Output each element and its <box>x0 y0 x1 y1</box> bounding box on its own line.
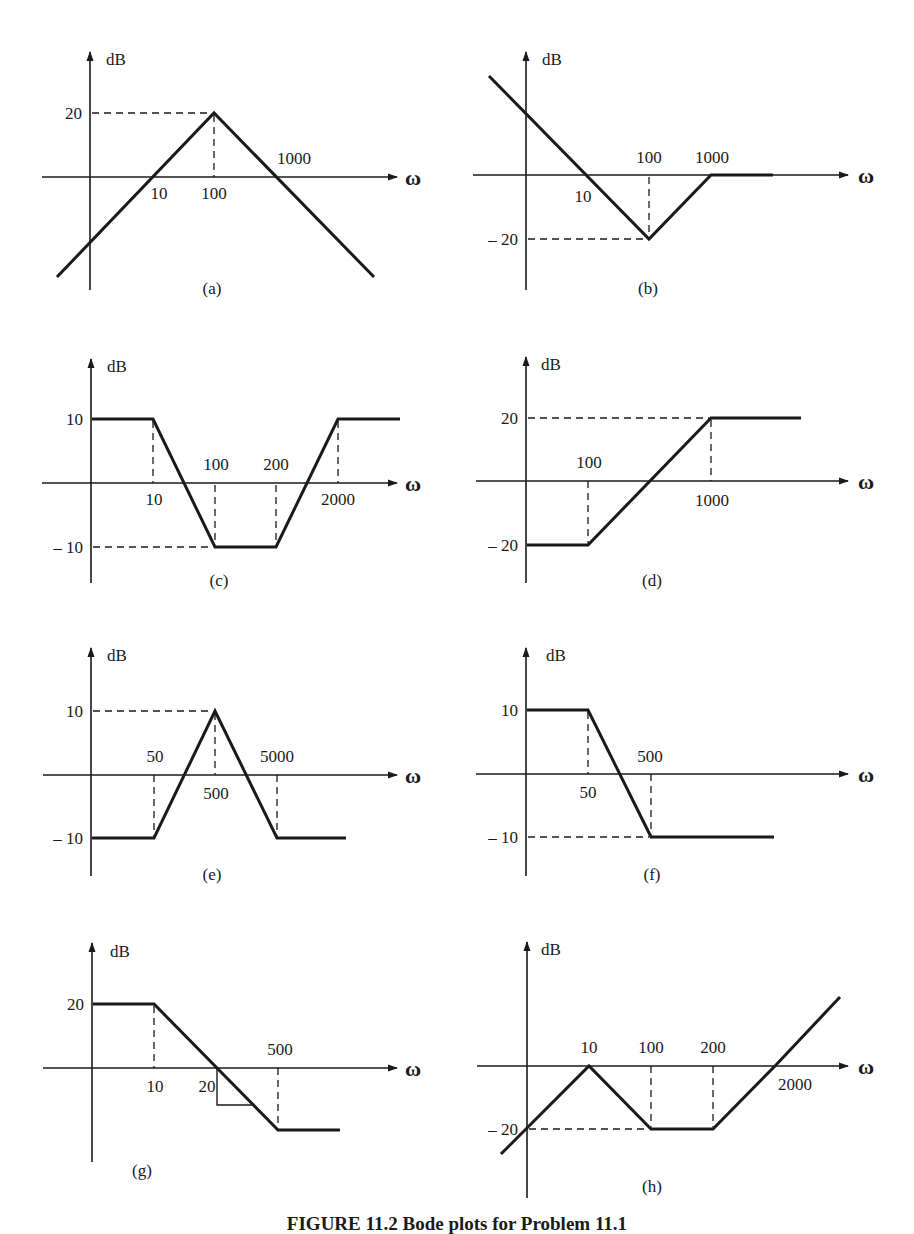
x-axis-label-omega: ω <box>405 1056 421 1081</box>
x-axis-label-omega: ω <box>405 763 421 788</box>
x-axis-label-omega: ω <box>858 163 874 188</box>
bode-curve <box>489 76 773 239</box>
x-axis-label-omega: ω <box>858 762 874 787</box>
x-tick-label: 10 <box>581 1038 598 1057</box>
x-axis-label-omega: ω <box>858 469 874 494</box>
x-axis-label-omega: ω <box>405 471 421 496</box>
x-tick-label: 1000 <box>277 149 311 168</box>
y-axis-label: dB <box>107 646 127 665</box>
x-tick-label: 10 <box>151 184 168 203</box>
x-tick-label: 500 <box>203 784 229 803</box>
panel-label: (c) <box>210 571 229 590</box>
x-axis-label-omega: ω <box>858 1054 874 1079</box>
y-axis-label: dB <box>546 646 566 665</box>
x-tick-label: 10 <box>575 187 592 206</box>
slope-label: 20 <box>199 1077 216 1096</box>
x-tick-label: 500 <box>637 747 663 766</box>
x-tick-label: 100 <box>636 148 662 167</box>
panel-g: dB ω 20 10 500 20 (g) <box>43 942 421 1180</box>
figure-caption: FIGURE 11.2 Bode plots for Problem 11.1 <box>0 1213 914 1234</box>
panel-label: (g) <box>132 1161 152 1180</box>
y-tick-label: – 20 <box>487 230 518 249</box>
x-tick-label: 5000 <box>260 747 294 766</box>
x-tick-label: 100 <box>638 1038 664 1057</box>
y-tick-label: – 10 <box>487 828 518 847</box>
panel-b: dB ω – 20 10 100 1000 (b) <box>473 50 874 298</box>
x-tick-label: 100 <box>576 453 602 472</box>
panel-e: dB ω 10 – 10 50 500 5000 (e) <box>43 646 421 884</box>
panel-label: (a) <box>203 279 222 298</box>
y-tick-label: – 10 <box>52 538 83 557</box>
panel-label: (h) <box>642 1177 662 1196</box>
x-tick-label: 10 <box>147 1077 164 1096</box>
y-tick-label: 10 <box>501 701 518 720</box>
x-tick-label: 50 <box>147 747 164 766</box>
y-tick-label: – 20 <box>487 1120 518 1139</box>
y-axis-label: dB <box>541 355 561 374</box>
bode-plot-figure: dB ω 20 10 100 1000 (a) dB ω – 20 10 100… <box>0 0 914 1234</box>
x-tick-label: 50 <box>580 783 597 802</box>
panel-f: dB ω 10 – 10 50 500 (f) <box>476 646 874 884</box>
y-axis-label: dB <box>110 942 130 961</box>
x-tick-label: 2000 <box>321 490 355 509</box>
x-tick-label: 200 <box>263 455 289 474</box>
y-tick-label: – 10 <box>52 829 83 848</box>
bode-curve <box>93 1004 340 1130</box>
x-tick-label: 500 <box>267 1040 293 1059</box>
y-tick-label: 10 <box>66 410 83 429</box>
panel-c: dB ω 10 – 10 10 100 200 2000 (c) <box>42 357 421 590</box>
panel-d: dB ω 20 – 20 100 1000 (d) <box>476 355 874 590</box>
y-axis-label: dB <box>106 50 126 69</box>
panel-label: (f) <box>644 865 661 884</box>
panel-a: dB ω 20 10 100 1000 (a) <box>42 50 421 298</box>
y-tick-label: 20 <box>501 409 518 428</box>
panel-label: (b) <box>638 279 658 298</box>
x-tick-label: 1000 <box>695 491 729 510</box>
panel-label: (d) <box>642 571 662 590</box>
x-tick-label: 100 <box>201 184 227 203</box>
y-tick-label: 10 <box>66 702 83 721</box>
x-tick-label: 100 <box>203 455 229 474</box>
x-tick-label: 2000 <box>778 1075 812 1094</box>
x-tick-label: 1000 <box>695 148 729 167</box>
panel-h: dB ω – 20 10 100 200 2000 (h) <box>477 940 874 1198</box>
x-tick-label: 200 <box>700 1038 726 1057</box>
x-tick-label: 10 <box>146 490 163 509</box>
y-axis-label: dB <box>107 357 127 376</box>
y-tick-label: 20 <box>65 104 82 123</box>
panel-label: (e) <box>203 865 222 884</box>
y-tick-label: 20 <box>67 995 84 1014</box>
y-tick-label: – 20 <box>487 536 518 555</box>
y-axis-label: dB <box>542 50 562 69</box>
y-axis-label: dB <box>541 940 561 959</box>
x-axis-label-omega: ω <box>405 165 421 190</box>
